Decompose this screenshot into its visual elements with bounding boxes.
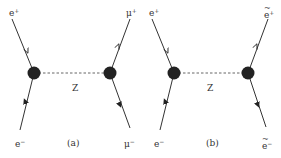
vertex-left-b [168, 67, 181, 80]
label-muon-plus-a: μ+ [126, 8, 137, 18]
positron-line-a [12, 19, 34, 73]
electron-line-b [160, 73, 174, 130]
muon-minus-line-a [110, 73, 130, 128]
selectron-minus-line-b [248, 73, 266, 127]
label-positron-a: e+ [9, 8, 19, 18]
feynman-diagrams-figure: e+ e− μ+ μ− Z (a) e+ e− e+ e− Z (b) [0, 0, 281, 158]
diagram-a [12, 19, 130, 130]
caption-b: (b) [206, 139, 219, 148]
label-z-boson-b: Z [207, 84, 213, 93]
vertex-left-a [28, 67, 41, 80]
vertex-right-b [242, 67, 255, 80]
label-positron-b: e+ [149, 8, 159, 18]
vertex-right-a [104, 67, 117, 80]
label-electron-a: e− [15, 139, 25, 149]
label-selectron-plus-b: e+ [264, 10, 274, 20]
label-z-boson-a: Z [72, 84, 78, 93]
selectron-plus-line-b [248, 19, 268, 73]
diagram-lines [0, 0, 281, 158]
label-selectron-minus-b: e− [262, 141, 272, 151]
label-muon-minus-a: μ− [124, 139, 135, 149]
muon-plus-line-a [110, 19, 130, 73]
positron-line-b [152, 19, 174, 73]
electron-line-a [20, 73, 34, 130]
diagram-b [152, 19, 268, 130]
label-electron-b: e− [154, 139, 164, 149]
caption-a: (a) [67, 139, 79, 148]
